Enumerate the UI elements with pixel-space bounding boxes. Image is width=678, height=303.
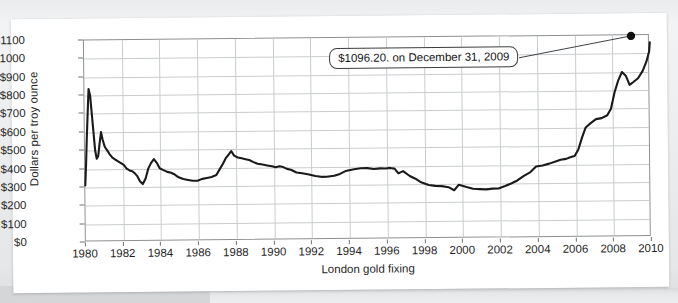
x-tick-label: 1980: [72, 247, 98, 259]
x-tick-mark: [273, 241, 274, 245]
x-tick-label: 1994: [336, 245, 362, 257]
x-tick-label: 1984: [148, 247, 174, 259]
x-tick-mark: [613, 237, 614, 241]
y-tick-mark: [79, 131, 84, 132]
x-tick-mark: [424, 239, 425, 243]
x-tick-label: 1992: [298, 245, 324, 257]
y-tick-label: $0: [14, 236, 27, 248]
annotation-point-marker: [627, 32, 635, 40]
x-tick-mark: [349, 240, 350, 244]
y-tick-mark: [79, 168, 84, 169]
x-tick-label: 1988: [223, 246, 249, 258]
annotation-callout: $1096.20. on December 31, 2009: [329, 46, 519, 69]
x-tick-label: 2004: [525, 243, 551, 255]
x-axis-title: London gold fixing: [85, 260, 651, 277]
x-tick-mark: [198, 241, 199, 245]
x-tick-mark: [387, 240, 388, 244]
y-tick-mark: [79, 205, 84, 206]
x-tick-label: 2010: [638, 242, 664, 254]
x-tick-mark: [500, 238, 501, 242]
y-tick-label: $100: [1, 218, 27, 230]
y-tick-label: $1000: [0, 52, 25, 64]
x-tick-mark: [85, 242, 86, 246]
y-tick-label: $600: [0, 126, 26, 138]
y-tick-label: $900: [0, 71, 25, 83]
y-tick-label: $300: [1, 181, 27, 193]
annotation-leader-line: [519, 36, 631, 58]
y-tick-mark: [80, 223, 85, 224]
x-tick-mark: [575, 238, 576, 242]
y-tick-mark: [78, 39, 83, 40]
x-tick-label: 2000: [449, 244, 475, 256]
y-tick-mark: [79, 113, 84, 114]
x-tick-label: 1996: [374, 244, 400, 256]
y-tick-label: $800: [0, 89, 25, 101]
y-tick-mark: [79, 150, 84, 151]
x-tick-label: 2008: [600, 242, 626, 254]
y-tick-mark: [78, 95, 83, 96]
x-tick-label: 2006: [563, 243, 589, 255]
x-tick-mark: [236, 241, 237, 245]
x-tick-label: 1998: [412, 244, 438, 256]
x-tick-mark: [462, 239, 463, 243]
x-tick-label: 1986: [185, 246, 211, 258]
y-tick-mark: [78, 76, 83, 77]
y-tick-mark: [79, 186, 84, 187]
x-tick-label: 2002: [487, 243, 513, 255]
y-tick-mark: [78, 58, 83, 59]
x-tick-label: 1990: [261, 246, 287, 258]
y-tick-label: $200: [1, 199, 27, 211]
y-tick-label: $400: [0, 163, 26, 175]
x-tick-mark: [160, 242, 161, 246]
x-tick-mark: [651, 237, 652, 241]
y-axis-title: Dollars per troy ounce: [27, 19, 41, 239]
x-tick-mark: [123, 242, 124, 246]
y-tick-label: $1100: [0, 34, 25, 46]
y-tick-label: $500: [0, 144, 26, 156]
chart-figure: Dollars per troy ounce $1100$1000$900$80…: [11, 13, 670, 293]
x-tick-label: 1982: [110, 247, 136, 259]
x-tick-mark: [538, 238, 539, 242]
printed-page: Dollars per troy ounce $1100$1000$900$80…: [11, 13, 670, 293]
y-tick-label: $700: [0, 107, 26, 119]
x-tick-mark: [311, 240, 312, 244]
